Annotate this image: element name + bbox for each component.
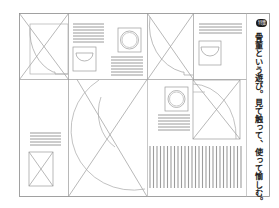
image-placeholder-top-center	[148, 14, 194, 80]
vertical-caption: 骨董という遊び。見て触って、使って愉しむ。	[253, 33, 263, 205]
feature-badge: 特集	[256, 19, 267, 27]
vertical-stripes-block	[150, 146, 241, 188]
plate-image-box-2	[165, 87, 188, 111]
bowl-image-box-2	[199, 41, 221, 65]
outer-frame	[20, 14, 270, 197]
text-lines-block-5	[30, 133, 61, 145]
plate-image-box-1	[118, 28, 141, 52]
image-placeholder-right	[193, 80, 240, 139]
image-placeholder-lower-center	[69, 80, 148, 197]
text-lines-block-4	[158, 115, 190, 130]
image-placeholder-top-left	[20, 14, 69, 80]
text-lines-block-3	[199, 24, 242, 33]
text-lines-block-1	[73, 24, 104, 42]
text-lines-block-2	[111, 57, 143, 75]
bowl-image-box-1	[73, 47, 96, 71]
image-placeholder-small	[29, 152, 53, 186]
layout-wireframe	[0, 0, 279, 208]
